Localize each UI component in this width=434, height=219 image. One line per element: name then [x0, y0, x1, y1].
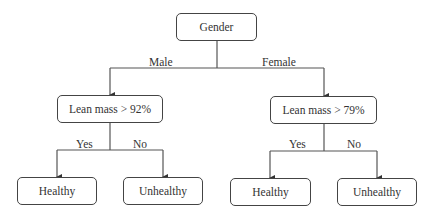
leaf-node-male-unhealthy: Unhealthy — [123, 177, 203, 205]
root-node-gender: Gender — [176, 13, 257, 41]
leaf-node-label: Unhealthy — [353, 186, 401, 198]
edge-label-male: Male — [149, 56, 173, 68]
decision-node-label: Lean mass > 79% — [282, 104, 364, 116]
decision-node-label: Lean mass > 92% — [69, 103, 151, 115]
edge-label-no: No — [347, 138, 361, 150]
leaf-node-female-healthy: Healthy — [230, 178, 311, 206]
leaf-node-label: Unhealthy — [139, 185, 187, 197]
edge-label-female: Female — [262, 56, 296, 68]
decision-node-male-lean-mass: Lean mass > 92% — [57, 95, 163, 123]
leaf-node-label: Healthy — [39, 185, 75, 197]
leaf-node-label: Healthy — [252, 186, 288, 198]
root-node-label: Gender — [200, 21, 234, 33]
edge-label-yes: Yes — [289, 138, 306, 150]
edge-label-no: No — [133, 138, 147, 150]
edge-label-yes: Yes — [76, 138, 93, 150]
leaf-node-female-unhealthy: Unhealthy — [337, 178, 417, 206]
decision-node-female-lean-mass: Lean mass > 79% — [270, 96, 377, 124]
leaf-node-male-healthy: Healthy — [17, 177, 97, 205]
